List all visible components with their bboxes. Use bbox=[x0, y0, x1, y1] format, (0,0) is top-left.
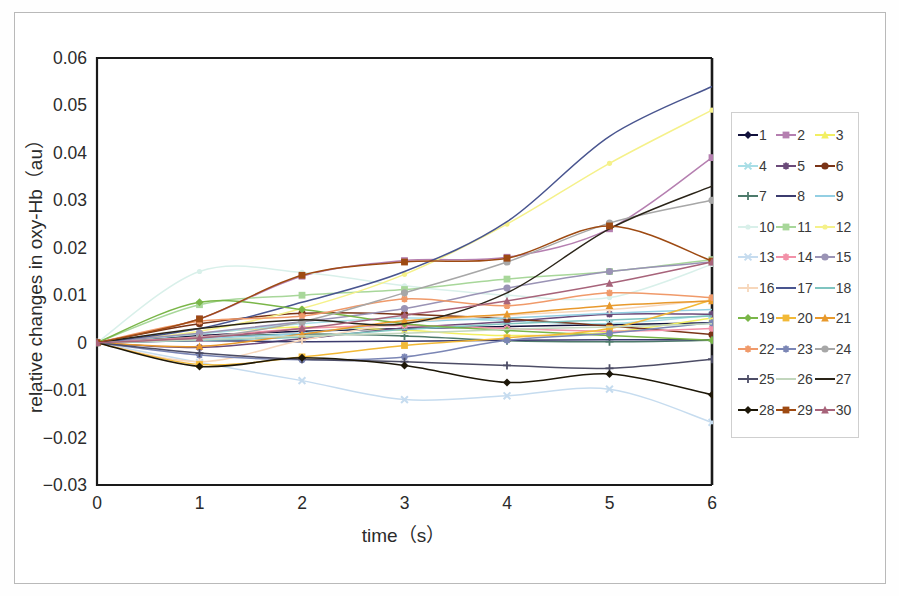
data-point-marker bbox=[196, 316, 203, 323]
legend-marker-icon bbox=[741, 372, 755, 386]
data-point-marker bbox=[503, 285, 510, 292]
legend-item-2[interactable]: 2 bbox=[776, 127, 814, 143]
legend-marker-icon bbox=[779, 159, 793, 173]
legend-item-6[interactable]: 6 bbox=[815, 158, 853, 174]
legend-item-13[interactable]: 13 bbox=[738, 249, 776, 265]
legend-item-3[interactable]: 3 bbox=[815, 127, 853, 143]
legend-item-14[interactable]: 14 bbox=[776, 249, 814, 265]
data-point-marker bbox=[783, 132, 790, 139]
legend-item-25[interactable]: 25 bbox=[738, 371, 776, 387]
data-point-marker bbox=[708, 197, 715, 204]
legend-item-10[interactable]: 10 bbox=[738, 219, 776, 235]
legend-label: 22 bbox=[759, 341, 775, 357]
data-point-marker bbox=[783, 254, 790, 261]
data-point-marker bbox=[606, 370, 614, 378]
legend-item-27[interactable]: 27 bbox=[815, 371, 853, 387]
legend-swatch-icon bbox=[776, 129, 796, 141]
data-point-marker bbox=[401, 361, 409, 369]
legend-label: 24 bbox=[836, 341, 852, 357]
legend-item-22[interactable]: 22 bbox=[738, 341, 776, 357]
legend-item-16[interactable]: 16 bbox=[738, 280, 776, 296]
legend-row: 131415 bbox=[738, 242, 853, 273]
legend-item-19[interactable]: 19 bbox=[738, 310, 776, 326]
legend-item-7[interactable]: 7 bbox=[738, 188, 776, 204]
legend-item-15[interactable]: 15 bbox=[815, 249, 853, 265]
data-point-marker bbox=[401, 296, 408, 303]
legend-item-23[interactable]: 23 bbox=[776, 341, 814, 357]
legend-swatch-icon bbox=[776, 190, 796, 202]
data-point-marker bbox=[821, 345, 828, 352]
y-tick-label: 0.04 bbox=[53, 143, 87, 163]
data-point-marker bbox=[606, 330, 613, 337]
data-point-marker bbox=[709, 154, 716, 161]
x-tick-label: 2 bbox=[297, 493, 307, 513]
legend-label: 15 bbox=[836, 249, 852, 265]
legend-swatch-icon bbox=[815, 373, 835, 385]
legend-label: 3 bbox=[836, 127, 844, 143]
legend-item-8[interactable]: 8 bbox=[776, 188, 814, 204]
legend-swatch-icon bbox=[776, 282, 796, 294]
legend-swatch-icon bbox=[815, 129, 835, 141]
legend-label: 4 bbox=[759, 158, 767, 174]
legend-item-11[interactable]: 11 bbox=[776, 219, 814, 235]
legend-label: 10 bbox=[759, 219, 775, 235]
legend-row: 222324 bbox=[738, 334, 853, 365]
legend-item-24[interactable]: 24 bbox=[815, 341, 853, 357]
data-point-marker bbox=[783, 162, 790, 169]
legend-marker-icon bbox=[741, 128, 755, 142]
y-tick-label: 0.02 bbox=[53, 238, 87, 258]
legend-label: 17 bbox=[797, 280, 813, 296]
legend-marker-icon bbox=[779, 220, 793, 234]
data-point-marker bbox=[821, 314, 829, 322]
legend-swatch-icon bbox=[815, 343, 835, 355]
legend-item-1[interactable]: 1 bbox=[738, 127, 776, 143]
legend-label: 20 bbox=[797, 310, 813, 326]
legend-marker-icon bbox=[741, 159, 755, 173]
data-point-marker bbox=[197, 269, 202, 274]
legend-swatch-icon bbox=[815, 190, 835, 202]
legend-swatch-icon bbox=[738, 312, 758, 324]
legend-item-30[interactable]: 30 bbox=[815, 402, 853, 418]
legend-item-20[interactable]: 20 bbox=[776, 310, 814, 326]
legend-marker-icon bbox=[779, 342, 793, 356]
legend-swatch-icon bbox=[815, 404, 835, 416]
legend-item-5[interactable]: 5 bbox=[776, 158, 814, 174]
legend-marker-icon bbox=[818, 250, 832, 264]
data-point-marker bbox=[783, 406, 790, 413]
data-point-marker bbox=[821, 162, 828, 169]
legend-item-9[interactable]: 9 bbox=[815, 188, 853, 204]
x-tick-label: 6 bbox=[707, 493, 717, 513]
legend-item-26[interactable]: 26 bbox=[776, 371, 814, 387]
data-point-marker bbox=[744, 284, 752, 292]
data-point-marker bbox=[401, 342, 408, 349]
data-point-marker bbox=[821, 131, 829, 139]
x-tick-label: 5 bbox=[605, 493, 615, 513]
legend-marker-icon bbox=[818, 220, 832, 234]
legend-item-4[interactable]: 4 bbox=[738, 158, 776, 174]
data-point-marker bbox=[606, 223, 613, 230]
legend-swatch-icon bbox=[776, 312, 796, 324]
legend-swatch-icon bbox=[738, 343, 758, 355]
data-point-marker bbox=[821, 254, 828, 261]
data-point-marker bbox=[709, 294, 716, 301]
legend-marker-icon bbox=[741, 311, 755, 325]
legend-swatch-icon bbox=[738, 373, 758, 385]
legend-swatch-icon bbox=[776, 373, 796, 385]
legend-item-29[interactable]: 29 bbox=[776, 402, 814, 418]
legend-marker-icon bbox=[779, 311, 793, 325]
legend-item-21[interactable]: 21 bbox=[815, 310, 853, 326]
x-tick-label: 3 bbox=[400, 493, 410, 513]
legend-swatch-icon bbox=[815, 160, 835, 172]
legend-item-28[interactable]: 28 bbox=[738, 402, 776, 418]
legend-swatch-icon bbox=[738, 404, 758, 416]
legend-swatch-icon bbox=[776, 404, 796, 416]
legend-item-12[interactable]: 12 bbox=[815, 219, 853, 235]
legend-swatch-icon bbox=[738, 221, 758, 233]
legend-swatch-icon bbox=[738, 129, 758, 141]
legend-swatch-icon bbox=[815, 221, 835, 233]
legend-marker-icon bbox=[818, 311, 832, 325]
legend-item-18[interactable]: 18 bbox=[815, 280, 853, 296]
legend-marker-icon bbox=[741, 220, 755, 234]
data-point-marker bbox=[744, 406, 752, 414]
legend-item-17[interactable]: 17 bbox=[776, 280, 814, 296]
